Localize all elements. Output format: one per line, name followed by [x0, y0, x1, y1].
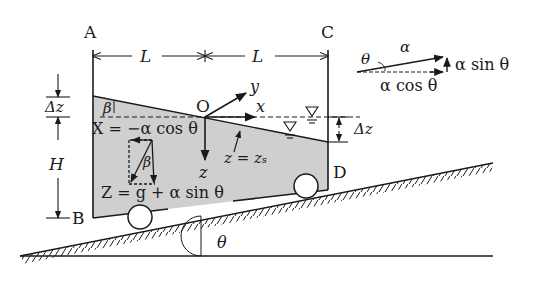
- inset-alpha-label: α: [400, 38, 410, 56]
- incline-angle-label: θ: [217, 233, 227, 252]
- height-label-h: H: [48, 154, 65, 174]
- beta-angle-label-top: β: [102, 99, 112, 117]
- surface-equation-label: z = zₛ: [223, 149, 267, 167]
- inset-alpha-cos-label: α cos θ: [380, 76, 437, 95]
- dimension-l: [93, 50, 328, 62]
- acceleration-inset: [357, 57, 447, 72]
- dimension-left: [46, 74, 70, 218]
- wheel-right: [294, 174, 318, 198]
- delta-z-label-left: Δz: [44, 98, 64, 116]
- delta-z-label-right: Δz: [353, 120, 373, 138]
- corner-label-b: B: [72, 208, 85, 228]
- length-label-left: L: [139, 46, 151, 66]
- x-acceleration-equation: X = −α cos θ: [92, 119, 198, 138]
- axis-label-x: x: [256, 97, 265, 116]
- corner-label-a: A: [83, 22, 97, 42]
- inset-theta-label: θ: [361, 50, 370, 68]
- beta-angle-label-vector: β: [142, 154, 151, 170]
- axis-label-z: z: [198, 163, 208, 182]
- inclined-tank-diagram: θ A C B D O L L Δz H Δz: [0, 0, 535, 282]
- corner-label-c: C: [321, 22, 334, 42]
- corner-label-d: D: [333, 162, 347, 182]
- axis-label-y: y: [249, 77, 260, 96]
- inset-alpha-sin-label: α sin θ: [455, 55, 509, 74]
- water-level-icon: [284, 107, 318, 138]
- length-label-right: L: [251, 46, 263, 66]
- wheel-left: [128, 205, 152, 229]
- origin-label-o: O: [196, 96, 210, 116]
- z-acceleration-equation: Z = g + α sin θ: [101, 183, 224, 202]
- dimension-right: [328, 117, 348, 142]
